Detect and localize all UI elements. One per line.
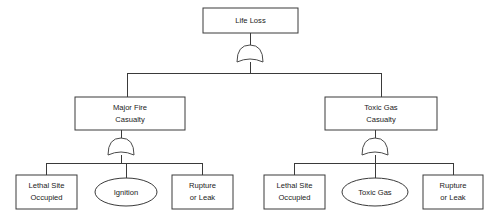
rupture-or-leak-right-label-line2: or Leak [440,193,466,202]
node-toxic-gas-casualty[interactable]: Toxic Gas Casualty [325,97,437,130]
fault-tree-canvas: Life Loss Major Fire Casualty Toxic Gas … [0,0,495,221]
fault-tree-diagram: Life Loss Major Fire Casualty Toxic Gas … [0,0,495,221]
toxic-gas-casualty-label-line1: Toxic Gas [364,103,398,112]
major-fire-casualty-label-line1: Major Fire [113,103,147,112]
connector-group-right [294,130,453,178]
node-rupture-or-leak-right[interactable]: Rupture or Leak [423,175,483,209]
lethal-site-occupied-right-label-line2: Occupied [278,193,310,202]
node-lethal-site-occupied-right[interactable]: Lethal Site Occupied [264,175,325,209]
node-lethal-site-occupied-left[interactable]: Lethal Site Occupied [16,175,77,209]
major-fire-or-gate [108,138,134,155]
node-ignition[interactable]: Ignition [95,178,157,206]
top-or-gate [237,45,263,62]
major-fire-casualty-box[interactable] [75,97,185,130]
lethal-site-occupied-right-label-line1: Lethal Site [277,181,313,190]
toxic-gas-or-gate [362,138,388,155]
node-life-loss[interactable]: Life Loss [203,8,298,33]
node-rupture-or-leak-left[interactable]: Rupture or Leak [172,175,233,209]
toxic-gas-casualty-box[interactable] [325,97,437,130]
toxic-gas-casualty-label-line2: Casualty [366,115,396,124]
node-toxic-gas[interactable]: Toxic Gas [342,178,408,206]
toxic-gas-label: Toxic Gas [358,188,392,197]
lethal-site-occupied-left-label-line2: Occupied [30,193,62,202]
rupture-or-leak-right-label-line1: Rupture [439,181,466,190]
connector-group-top [127,33,381,97]
rupture-or-leak-left-label-line2: or Leak [190,193,216,202]
node-major-fire-casualty[interactable]: Major Fire Casualty [75,97,185,130]
lethal-site-occupied-left-label-line1: Lethal Site [29,181,65,190]
rupture-or-leak-left-label-line1: Rupture [189,181,216,190]
life-loss-label-line1: Life Loss [235,16,266,25]
connector-group-left [46,130,202,178]
ignition-label: Ignition [114,188,139,197]
major-fire-casualty-label-line2: Casualty [115,115,145,124]
